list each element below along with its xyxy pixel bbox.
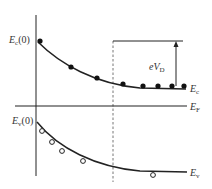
filled-point: [37, 38, 42, 43]
evd-label: eVD: [149, 61, 165, 74]
filled-point: [155, 83, 160, 88]
filled-point: [181, 83, 186, 88]
ec-label: Ec: [189, 83, 199, 96]
ef-label: EF: [189, 101, 200, 114]
filled-point: [120, 81, 125, 86]
filled-point: [140, 83, 145, 88]
open-point: [50, 140, 55, 145]
open-point: [60, 149, 65, 154]
valence-band-curve: [37, 122, 187, 172]
filled-data-points: [37, 38, 186, 88]
open-point: [40, 129, 45, 134]
open-point: [81, 159, 86, 164]
filled-point: [68, 64, 73, 69]
filled-point: [169, 83, 174, 88]
evd-arrow-head-icon: [174, 41, 179, 47]
band-diagram: Ec(0) Ev(0) eVD Ec EF Ev: [0, 0, 212, 189]
ev-label: Ev: [189, 167, 200, 180]
filled-point: [94, 75, 99, 80]
ev0-label: Ev(0): [11, 115, 33, 128]
open-point: [151, 173, 156, 178]
ec0-label: Ec(0): [8, 34, 30, 47]
